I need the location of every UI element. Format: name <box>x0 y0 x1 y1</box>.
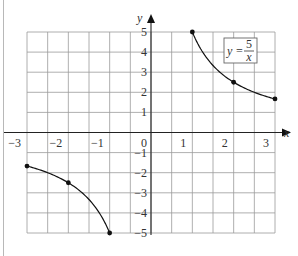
x-tick-label: −2 <box>50 136 63 150</box>
x-tick-label: 3 <box>263 136 269 150</box>
y-tick-label: −2 <box>134 166 147 180</box>
y-tick-label: 4 <box>141 45 147 59</box>
equation-lhs: y = <box>226 44 243 58</box>
graph-y-equals-5-over-x: −3−2−1012354321−1−2−3−4−5 y = 5 x x y <box>0 0 298 256</box>
y-tick-label: −1 <box>134 146 147 160</box>
y-tick-label: −3 <box>134 186 147 200</box>
x-tick-label: −1 <box>91 136 104 150</box>
data-point <box>107 231 112 236</box>
y-tick-label: 5 <box>141 25 147 39</box>
x-tick-label: 1 <box>180 136 186 150</box>
x-tick-label: −3 <box>8 136 21 150</box>
y-tick-label: 3 <box>141 65 147 79</box>
data-point <box>66 180 71 185</box>
data-point <box>190 30 195 35</box>
data-point <box>25 164 30 169</box>
data-point <box>231 80 236 85</box>
data-point <box>273 97 278 102</box>
equation-label-box: y = 5 x <box>224 37 257 64</box>
x-axis-label: x <box>283 126 290 140</box>
y-tick-label: 1 <box>141 105 147 119</box>
y-axis-arrow-icon <box>147 14 155 23</box>
x-tick-label: 2 <box>222 136 228 150</box>
y-tick-label: −4 <box>134 206 147 220</box>
equation-numerator: 5 <box>246 37 252 51</box>
equation-denominator: x <box>245 50 252 64</box>
y-tick-label: −5 <box>134 226 147 240</box>
y-axis-label: y <box>136 11 143 25</box>
y-tick-label: 2 <box>141 85 147 99</box>
